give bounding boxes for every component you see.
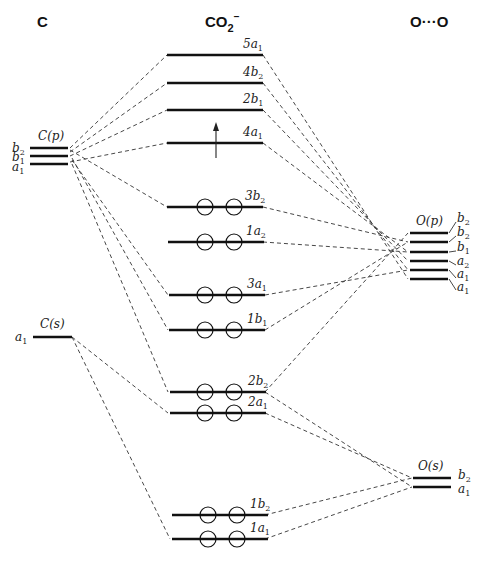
svg-text:1a1: 1a1 (250, 521, 270, 537)
unpaired-electron-arrow-icon (213, 122, 219, 158)
connections-os (265, 392, 412, 539)
svg-text:1b2: 1b2 (250, 497, 270, 513)
svg-text:2b1: 2b1 (242, 92, 263, 108)
svg-text:4a1: 4a1 (242, 125, 263, 141)
svg-text:a1: a1 (458, 482, 470, 498)
oxygen-s-levels: O(s) b2 a1 (413, 459, 471, 498)
cs-label: C(s) (40, 317, 65, 331)
oxygen-p-levels: O(p) b2 b2 b1 a2 a1 a1 (410, 211, 470, 296)
carbon-s-level: C(s) a1 (15, 317, 72, 346)
connections-op (263, 55, 408, 392)
header-co2-anion: CO2− (205, 11, 240, 34)
op-label: O(p) (416, 214, 443, 228)
header-oxygen-pair: O···O (410, 13, 449, 30)
svg-text:b2: b2 (457, 225, 470, 241)
connections-cp (70, 55, 168, 392)
svg-text:a1: a1 (15, 330, 27, 346)
cp-label: C(p) (38, 129, 65, 143)
svg-text:3a1: 3a1 (247, 277, 267, 293)
svg-text:3b2: 3b2 (245, 189, 265, 205)
svg-text:2b2: 2b2 (247, 374, 268, 390)
connections-cs (72, 337, 170, 539)
co2-levels: 5a1 4b2 2b1 4a1 3b2 1a2 3a1 1b1 2b2 (167, 37, 270, 547)
svg-text:2a1: 2a1 (247, 395, 268, 411)
os-label: O(s) (418, 459, 444, 473)
svg-text:4b2: 4b2 (242, 65, 263, 81)
svg-text:1b1: 1b1 (247, 312, 267, 328)
svg-text:CO2−: CO2− (205, 11, 240, 34)
carbon-p-levels: C(p) b2 b1 a1 (12, 129, 68, 176)
svg-text:1a2: 1a2 (246, 224, 266, 240)
svg-text:5a1: 5a1 (243, 37, 263, 53)
header-carbon: C (37, 13, 48, 30)
molecular-orbital-diagram: C CO2− O···O C(p) (0, 0, 485, 563)
